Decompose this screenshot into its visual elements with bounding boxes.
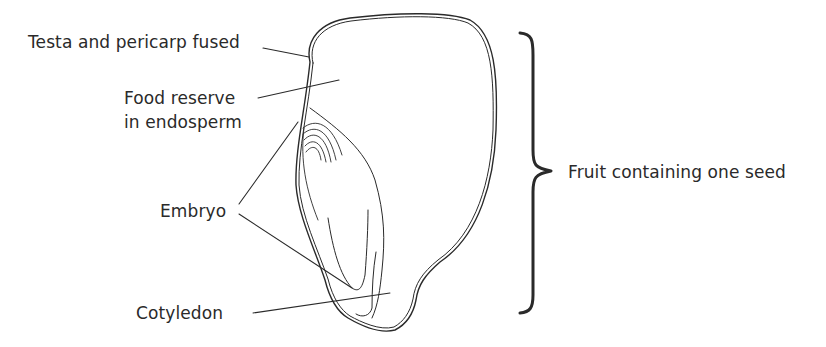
label-food-reserve-2: in endosperm — [124, 111, 242, 133]
grain-outline — [296, 14, 497, 331]
label-embryo: Embryo — [160, 200, 226, 222]
label-cotyledon: Cotyledon — [136, 302, 223, 324]
brace — [520, 33, 551, 313]
label-testa: Testa and pericarp fused — [28, 31, 240, 53]
embryo-layers — [303, 123, 342, 220]
label-fruit: Fruit containing one seed — [568, 161, 786, 183]
label-food-reserve-1: Food reserve — [124, 87, 235, 109]
leader-lines — [239, 48, 390, 313]
